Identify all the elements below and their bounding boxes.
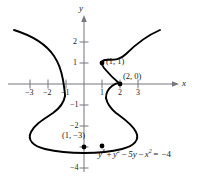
y-tick-label--1: −1 (70, 101, 79, 109)
eq-plus: + (107, 149, 112, 159)
eq-5y: 5y (128, 149, 137, 159)
x-tick-label-1: 1 (100, 89, 104, 97)
point-marker-0-neg3 (82, 145, 87, 150)
eq-x2-exp: 2 (149, 148, 152, 154)
y-tick-label-2: 2 (73, 38, 77, 46)
eq-equals: = (153, 149, 158, 159)
eq-minus-2: − (138, 149, 143, 159)
point-label-1-1: (1, 1) (106, 57, 124, 66)
x-tick-label--3: −3 (25, 89, 34, 97)
x-axis-label: x (182, 79, 186, 88)
point-marker-1-1 (100, 61, 105, 66)
x-tick-label-2: 2 (118, 89, 122, 97)
point-label-1-neg3: (1, −3) (62, 131, 85, 140)
y-tick-label--2: −2 (70, 122, 79, 130)
curve-branch-upper-left (14, 30, 65, 96)
eq-y2-exp: 2 (117, 148, 120, 154)
y-tick-label-1: 1 (73, 59, 77, 67)
eq-rhs: −4 (161, 149, 171, 159)
x-tick-label--1: −1 (61, 89, 70, 97)
eq-y3-exp: 3 (102, 148, 105, 154)
point-marker-2-0 (118, 82, 123, 87)
math-figure: −3 −2 −1 1 2 3 2 1 −1 −2 −4 x y (1, 1) (… (0, 0, 207, 180)
x-tick-label--2: −2 (43, 89, 52, 97)
y-tick-label--4: −4 (70, 164, 79, 172)
x-tick-label-3: 3 (136, 89, 140, 97)
x-axis (8, 81, 179, 87)
point-label-2-0: (2, 0) (123, 72, 141, 81)
eq-minus-1: − (122, 149, 127, 159)
equation-label: y3+y2−5y−x2=−4 (98, 150, 172, 159)
y-axis-label: y (79, 4, 83, 13)
